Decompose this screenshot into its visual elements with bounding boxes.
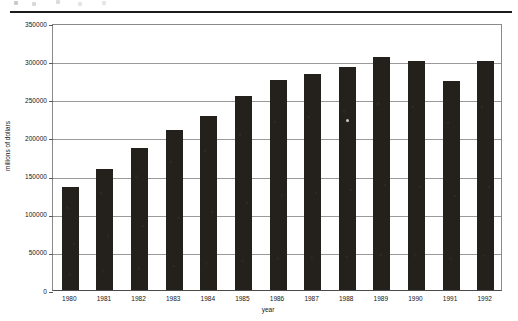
bar — [408, 61, 425, 290]
plot-area — [52, 24, 502, 291]
bar — [131, 148, 148, 290]
bar — [96, 169, 113, 290]
gridline — [53, 63, 501, 64]
bar — [270, 80, 287, 290]
y-axis-tick — [49, 101, 53, 102]
y-axis-tick-label: 0 — [4, 288, 47, 295]
y-axis-title: millions of dollars — [4, 107, 12, 185]
y-axis-tick — [49, 178, 53, 179]
y-axis-tick — [49, 292, 53, 293]
bar — [443, 81, 460, 290]
bar — [373, 57, 390, 290]
y-axis-tick-label: 350000 — [4, 21, 47, 28]
bar — [166, 130, 183, 290]
bar — [339, 67, 356, 290]
bar — [62, 187, 79, 290]
bar — [235, 96, 252, 290]
y-axis-tick — [49, 139, 53, 140]
y-axis-tick — [49, 254, 53, 255]
x-axis-title: year — [0, 306, 518, 314]
y-axis-tick — [49, 25, 53, 26]
bar — [477, 61, 494, 290]
x-axis-title-text: year — [262, 306, 275, 313]
bar — [200, 116, 217, 290]
y-axis-tick-label: 300000 — [4, 59, 47, 66]
y-axis-tick-label: 250000 — [4, 97, 47, 104]
y-axis-tick-label: 100000 — [4, 211, 47, 218]
bar-chart: 0500001000001500002000002500003000003500… — [0, 0, 518, 321]
x-axis-tick-label: 1992 — [465, 295, 505, 303]
y-axis-tick-label: 50000 — [4, 249, 47, 256]
y-axis-tick — [49, 216, 53, 217]
bar — [304, 74, 321, 290]
y-axis-tick — [49, 63, 53, 64]
